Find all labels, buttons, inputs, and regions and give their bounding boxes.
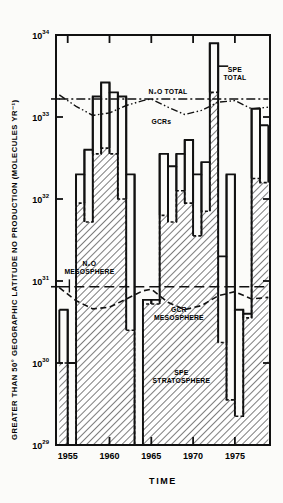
y-tick-label: 1033 [32, 111, 49, 123]
y-tick-label: 1034 [32, 29, 49, 41]
chart-canvas: 102910301031103210331034 195519601965197… [0, 0, 283, 503]
annotation-gcrs: GCRs [151, 118, 171, 125]
x-tick-label: 1970 [183, 451, 203, 461]
x-axis-title: TIME [149, 476, 177, 486]
x-tick-label: 1955 [58, 451, 78, 461]
svg-text:GREATER THAN 50° GEOGRAPHIC LA: GREATER THAN 50° GEOGRAPHIC LATITUDE NO … [10, 100, 19, 441]
x-tick-label: 1975 [225, 451, 245, 461]
y-tick-label: 1031 [32, 275, 49, 287]
figure: 102910301031103210331034 195519601965197… [0, 0, 283, 503]
y-tick-label: 1030 [32, 357, 49, 369]
annotation-n2o-total: N₂O TOTAL [149, 88, 188, 95]
y-tick-label: 1029 [32, 439, 49, 451]
y-axis-title: GREATER THAN 50° GEOGRAPHIC LATITUDE NO … [10, 100, 19, 441]
svg-text:TIME: TIME [149, 476, 177, 486]
y-tick-label: 1032 [32, 193, 49, 205]
x-tick-label: 1965 [141, 451, 161, 461]
x-tick-label: 1960 [99, 451, 119, 461]
